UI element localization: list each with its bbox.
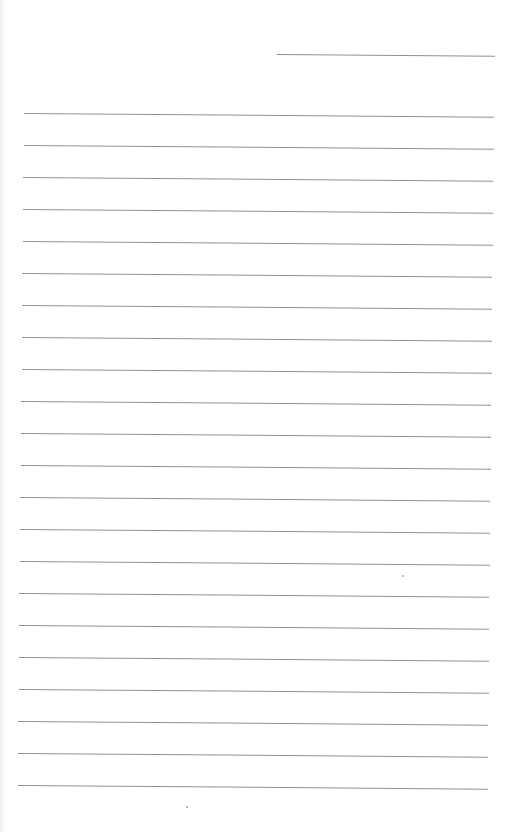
ruled-line xyxy=(19,593,489,598)
ruled-line xyxy=(20,497,490,502)
ruled-line xyxy=(22,369,492,374)
scan-speck xyxy=(402,575,404,577)
ruled-line xyxy=(20,529,490,534)
ruled-line xyxy=(19,657,489,662)
ruled-line xyxy=(18,721,488,726)
ruled-line xyxy=(20,561,490,566)
ruled-line xyxy=(22,273,492,278)
ruled-line xyxy=(21,465,491,470)
ruled-line xyxy=(23,177,493,182)
ruled-line xyxy=(23,209,493,214)
ruled-line xyxy=(18,753,488,758)
ruled-line xyxy=(21,401,491,406)
ruled-line xyxy=(21,433,491,438)
scan-speck xyxy=(186,806,188,808)
ruled-line xyxy=(19,625,489,630)
scan-edge-shadow xyxy=(0,0,5,832)
ruled-line xyxy=(22,337,492,342)
ruled-line xyxy=(18,785,488,790)
ruled-line xyxy=(23,241,493,246)
header-rule xyxy=(277,54,495,57)
ruled-line xyxy=(24,145,494,150)
ruled-line xyxy=(24,113,494,118)
ruled-line xyxy=(22,305,492,310)
ruled-line xyxy=(19,689,489,694)
